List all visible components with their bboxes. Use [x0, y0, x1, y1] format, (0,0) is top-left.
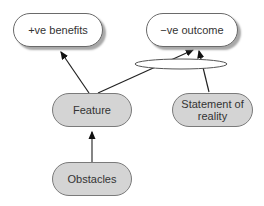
node-label: +ve benefits [28, 24, 88, 36]
node-label: Statement of reality [179, 98, 246, 122]
node-statement-of-reality: Statement of reality [172, 93, 253, 127]
node-positive-benefits: +ve benefits [13, 13, 103, 47]
edge-feature-to-outcome [98, 50, 193, 93]
node-label: −ve outcome [160, 24, 223, 36]
edge-statement-to-outcome [199, 51, 209, 92]
node-label: Obstacles [68, 173, 117, 185]
node-negative-outcome: −ve outcome [146, 13, 238, 47]
node-label: Feature [73, 104, 111, 116]
and-junction-ellipse [135, 59, 227, 69]
node-feature: Feature [52, 93, 132, 127]
node-obstacles: Obstacles [52, 162, 132, 196]
edge-feature-to-benefits [61, 52, 89, 93]
